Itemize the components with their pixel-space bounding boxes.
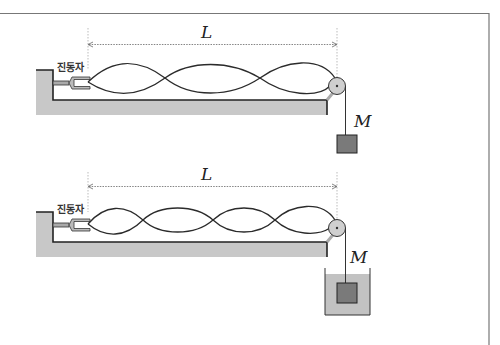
bottom-length-label: L [200, 164, 212, 184]
standing-wave-diagram: L 진동자 M L [0, 0, 500, 345]
bottom-length-marker [88, 172, 337, 222]
bottom-setup: L 진동자 M [36, 164, 370, 315]
top-standing-wave [88, 63, 335, 94]
top-pulley-icon [327, 78, 346, 101]
top-tuning-fork-icon [53, 77, 90, 89]
top-mass [337, 135, 357, 153]
top-length-marker [88, 28, 337, 80]
bottom-vibrator-label: 진동자 [57, 203, 85, 215]
top-vibrator-label: 진동자 [57, 61, 85, 73]
top-length-label: L [200, 22, 212, 42]
bottom-mass-label: M [349, 247, 368, 267]
bottom-tuning-fork-icon [53, 219, 90, 231]
bottom-standing-wave [88, 206, 335, 234]
bottom-pulley-icon [327, 220, 346, 243]
bottom-mass [337, 283, 357, 303]
top-setup: L 진동자 M [36, 22, 372, 153]
top-mass-label: M [353, 111, 372, 131]
